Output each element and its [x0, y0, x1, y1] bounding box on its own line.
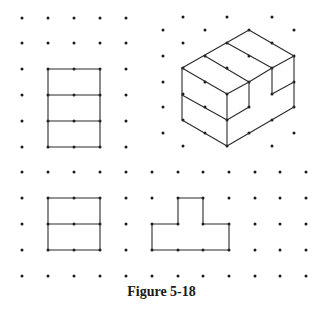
grid-dot	[182, 42, 185, 45]
edge-line	[205, 56, 249, 82]
grid-dot	[305, 249, 308, 252]
grid-dot	[228, 197, 231, 200]
grid-dot	[151, 275, 154, 278]
grid-dot	[21, 146, 24, 149]
grid-dot	[21, 17, 24, 20]
grid-dot	[228, 171, 231, 174]
grid-dot	[151, 197, 154, 200]
grid-dot	[254, 275, 257, 278]
grid-dot	[202, 275, 205, 278]
grid-dot	[305, 171, 308, 174]
grid-dot	[99, 171, 102, 174]
grid-dot	[204, 29, 207, 32]
grid-dot	[125, 17, 128, 20]
grid-dot	[125, 223, 128, 226]
grid-dot	[182, 145, 185, 148]
grid-dot	[125, 120, 128, 123]
grid-dot	[279, 171, 282, 174]
grid-dot	[125, 68, 128, 71]
front-view-drawing	[48, 198, 100, 250]
grid-dot	[254, 223, 257, 226]
grid-dot	[182, 16, 185, 19]
grid-dot	[279, 197, 282, 200]
side-view-drawing	[152, 198, 229, 250]
grid-dot	[125, 249, 128, 252]
grid-dot	[21, 249, 24, 252]
grid-dot	[21, 68, 24, 71]
grid-dot	[162, 81, 165, 84]
isometric-solid-drawing	[182, 30, 294, 146]
grid-dot	[73, 17, 76, 20]
grid-dot	[162, 132, 165, 135]
grid-dot	[305, 197, 308, 200]
grid-dot	[177, 275, 180, 278]
grid-dot	[228, 275, 231, 278]
edge-line	[272, 68, 294, 94]
grid-dot	[47, 275, 50, 278]
grid-dot	[99, 17, 102, 20]
grid-dot	[177, 171, 180, 174]
dot-grid-drawing	[0, 0, 323, 314]
grid-dot	[305, 275, 308, 278]
top-view-drawing	[48, 69, 100, 147]
grid-dot	[21, 171, 24, 174]
grid-dot	[254, 171, 257, 174]
grid-dot	[254, 249, 257, 252]
grid-dot	[162, 29, 165, 32]
grid-dot	[202, 171, 205, 174]
grid-dot	[47, 17, 50, 20]
edge-line	[227, 43, 272, 68]
grid-dot	[125, 275, 128, 278]
grid-dot	[271, 145, 274, 148]
grid-dot	[21, 275, 24, 278]
edge-line	[227, 56, 294, 146]
grid-dot	[21, 94, 24, 97]
grid-dot	[21, 120, 24, 123]
grid-dot	[125, 197, 128, 200]
grid-dot	[162, 55, 165, 58]
grid-dot	[99, 42, 102, 45]
grid-dot	[279, 223, 282, 226]
grid-dot	[47, 171, 50, 174]
square-dot-grid-top	[21, 17, 128, 149]
grid-dot	[293, 29, 296, 32]
grid-dot	[254, 197, 257, 200]
grid-dot	[21, 223, 24, 226]
grid-dot	[151, 171, 154, 174]
grid-dot	[162, 106, 165, 109]
grid-dot	[125, 171, 128, 174]
grid-dot	[73, 171, 76, 174]
grid-dot	[293, 132, 296, 135]
figure-caption: Figure 5-18	[0, 284, 323, 300]
grid-dot	[21, 197, 24, 200]
grid-dot	[279, 275, 282, 278]
figure-canvas: Figure 5-18	[0, 0, 323, 314]
grid-dot	[73, 42, 76, 45]
grid-dot	[21, 42, 24, 45]
grid-dot	[226, 16, 229, 19]
edge-line	[182, 95, 227, 120]
grid-dot	[271, 16, 274, 19]
grid-dot	[99, 275, 102, 278]
grid-dot	[305, 223, 308, 226]
grid-dot	[125, 146, 128, 149]
grid-dot	[125, 94, 128, 97]
grid-dot	[47, 42, 50, 45]
edge-line	[48, 69, 100, 147]
grid-dot	[125, 42, 128, 45]
grid-dot	[73, 275, 76, 278]
grid-dot	[279, 249, 282, 252]
edge-line	[152, 198, 229, 250]
